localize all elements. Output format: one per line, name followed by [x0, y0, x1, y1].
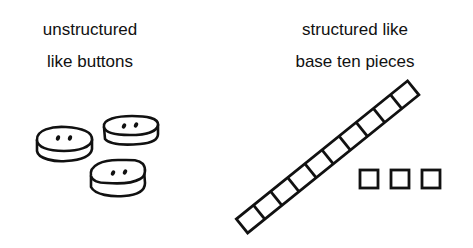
ten-rod: [236, 81, 419, 233]
unit-cube-icon: [422, 170, 440, 188]
unit-cube-icon: [391, 170, 409, 188]
illustration: [0, 0, 473, 248]
button-icon: [91, 160, 145, 196]
button-icon: [37, 127, 92, 161]
button-icon: [104, 116, 158, 144]
unit-cube-icon: [360, 170, 378, 188]
